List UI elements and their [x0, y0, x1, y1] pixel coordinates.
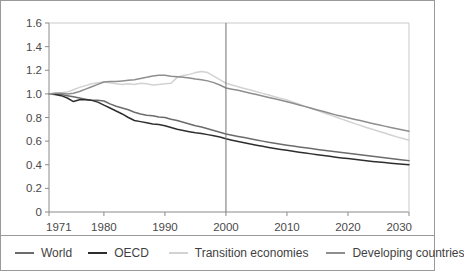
x-tick-label: 2020 [335, 221, 361, 233]
x-tick-label: 2030 [386, 221, 412, 233]
series-lines [49, 71, 409, 164]
x-tick-label: 1990 [152, 221, 178, 233]
line-chart: 00.20.40.60.81.01.21.41.6 19711980199020… [1, 1, 434, 235]
x-tick-label: 1980 [91, 221, 117, 233]
legend-item-transition-economies: Transition economies [169, 247, 309, 259]
y-tick-label: 0.4 [26, 159, 43, 171]
y-tick-label: 1.0 [26, 88, 42, 100]
y-axis-tick-labels: 00.20.40.60.81.01.21.41.6 [26, 17, 43, 218]
y-tick-label: 0.2 [26, 182, 42, 194]
legend-label-developing-countries: Developing countries [352, 247, 464, 259]
y-tick-label: 0 [36, 206, 42, 218]
y-tick-label: 1.6 [26, 17, 42, 29]
legend-swatch-oecd [88, 252, 107, 254]
y-tick-label: 1.4 [26, 41, 43, 53]
legend-label-oecd: OECD [114, 247, 149, 259]
legend-swatch-developing-countries [326, 252, 345, 254]
x-tick-label: 1971 [46, 221, 72, 233]
x-tick-label: 2010 [274, 221, 300, 233]
legend-item-world: World [15, 247, 72, 259]
y-tick-label: 1.2 [26, 64, 42, 76]
y-tick-label: 0.6 [26, 135, 42, 147]
chart-legend: World OECD Transition economies Developi… [1, 235, 434, 270]
legend-swatch-world [15, 252, 34, 254]
legend-label-world: World [41, 247, 72, 259]
legend-swatch-transition-economies [169, 252, 188, 254]
x-axis-tick-labels: 1971198019902000201020202030 [46, 221, 412, 233]
legend-item-oecd: OECD [88, 247, 149, 259]
legend-label-transition-economies: Transition economies [195, 247, 309, 259]
legend-item-developing-countries: Developing countries [326, 247, 464, 259]
y-tick-label: 0.8 [26, 112, 42, 124]
chart-plot-area: 00.20.40.60.81.01.21.41.6 19711980199020… [1, 1, 434, 235]
x-tick-label: 2000 [213, 221, 239, 233]
